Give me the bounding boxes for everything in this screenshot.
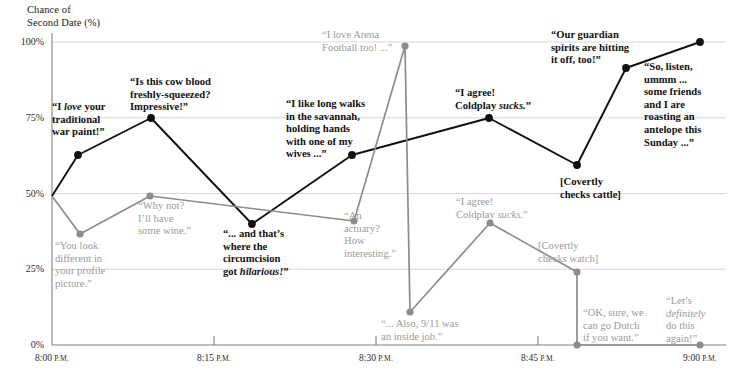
x-tick-label: 8:00 P.M. (0, 353, 107, 363)
x-tick-marks (214, 336, 538, 345)
chart-annotation-b7: [Covertly checks watch] (538, 240, 598, 265)
chart-annotation-a3: “... and that’s where the circumcision g… (223, 228, 289, 278)
data-point[interactable] (248, 220, 256, 228)
chart-annotation-b4: “I love Arena Football too! ...” (322, 29, 392, 54)
data-point[interactable] (401, 42, 408, 49)
data-point[interactable] (573, 268, 580, 275)
x-tick-label: 9:00 P.M. (645, 353, 732, 363)
y-tick-label: 75% (4, 112, 44, 123)
chart-annotation-a6: [Covertly checks cattle] (560, 176, 621, 201)
x-tick-label: 8:15 P.M. (159, 353, 269, 363)
chart-annotation-b6: “I agree! Coldplay sucks.” (456, 196, 528, 221)
chart-annotation-b3: “An actuary? How interesting.” (344, 210, 396, 260)
y-tick-label: 0% (4, 339, 44, 350)
xkcd-date-chart: Chance of Second Date (%) 0%25%50%75%100… (0, 0, 732, 375)
data-point[interactable] (406, 308, 413, 315)
chart-annotation-a1: “I love your traditional war paint!” (52, 101, 106, 139)
y-tick-label: 25% (4, 263, 44, 274)
chart-annotation-a4: “I like long walks in the savannah, hold… (286, 98, 365, 161)
chart-annotation-a5: “I agree! Coldplay sucks.” (455, 87, 531, 112)
data-point[interactable] (74, 151, 82, 159)
chart-annotation-a8: “So, listen, ummm ... some friends and I… (644, 61, 701, 149)
chart-annotation-a7: “Our guardian spirits are hitting it off… (551, 29, 629, 67)
chart-annotation-b2: “Why not? I’ll have some wine.” (138, 200, 191, 238)
data-point[interactable] (696, 38, 704, 46)
data-point[interactable] (573, 161, 581, 169)
chart-annotation-b1: “You look different in your profile pict… (55, 240, 105, 290)
data-point[interactable] (147, 114, 155, 122)
data-point[interactable] (76, 230, 83, 237)
chart-annotation-b9: “Let’s definitely do this again!” (666, 295, 705, 345)
chart-annotation-b8: “OK, sure, we can go Dutch if you want.” (583, 307, 644, 345)
data-point[interactable] (573, 341, 580, 348)
chart-annotation-b5: “... Also, 9/11 was an inside job.” (381, 318, 459, 343)
x-tick-label: 8:45 P.M. (483, 353, 593, 363)
chart-annotation-a2: “Is this cow blood freshly-squeezed? Imp… (130, 76, 211, 114)
x-tick-label: 8:30 P.M. (321, 353, 431, 363)
data-point[interactable] (485, 114, 493, 122)
y-tick-label: 50% (4, 188, 44, 199)
data-point[interactable] (146, 192, 153, 199)
y-tick-label: 100% (4, 36, 44, 47)
